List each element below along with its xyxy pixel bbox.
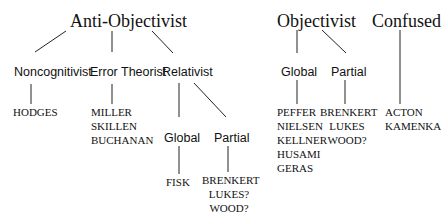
member-name: FISK [166, 175, 190, 189]
member-name: ACTON [385, 105, 441, 119]
taxonomy-diagram: Anti-Objectivist Objectivist Confused No… [0, 0, 443, 219]
subcategory-error-theorist: Error Theorist [90, 66, 166, 79]
member-name: BUCHANAN [91, 133, 153, 147]
subcategory-noncognitivist: Noncognitivist [14, 66, 92, 79]
member-name: KAMENKA [385, 119, 441, 133]
member-name: SKILLEN [91, 119, 153, 133]
relativist-global: Global [164, 132, 200, 145]
category-anti-objectivist: Anti-Objectivist [70, 12, 187, 30]
category-confused: Confused [372, 12, 441, 30]
subcategory-relativist: Relativist [162, 66, 213, 79]
confused-members: ACTON KAMENKA [385, 105, 441, 133]
objectivist-partial-members: BRENKERT LUKES WOOD? [320, 105, 374, 147]
member-name: MILLER [91, 105, 153, 119]
objectivist-global: Global [281, 66, 317, 79]
relativist-partial-members: BRENKERT LUKES? WOOD? [202, 173, 256, 215]
error-theorist-members: MILLER SKILLEN BUCHANAN [91, 105, 153, 147]
category-objectivist: Objectivist [277, 12, 356, 30]
member-name: WOOD? [320, 133, 374, 147]
noncognitivist-members: HODGES [13, 105, 58, 119]
relativist-partial: Partial [214, 132, 249, 145]
member-name: WOOD? [202, 201, 256, 215]
member-name: BRENKERT [320, 105, 374, 119]
member-name: LUKES [320, 119, 374, 133]
member-name: HUSAMI [277, 147, 327, 161]
member-name: HODGES [13, 105, 58, 119]
relativist-global-members: FISK [166, 175, 190, 189]
member-name: BRENKERT [202, 173, 256, 187]
objectivist-partial: Partial [331, 66, 366, 79]
member-name: LUKES? [202, 187, 256, 201]
member-name: GERAS [277, 161, 327, 175]
